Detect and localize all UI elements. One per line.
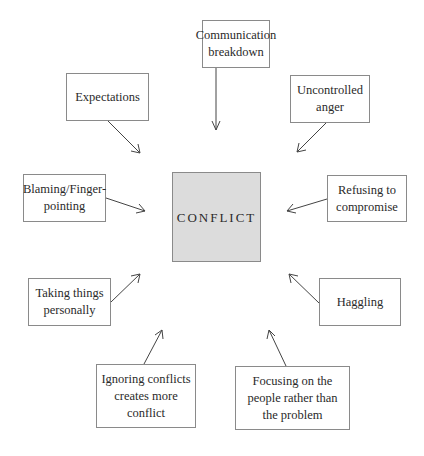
arrow-expectations <box>108 121 140 153</box>
node-label: Blaming/Finger-pointing <box>23 181 106 215</box>
arrow-blaming <box>106 198 145 213</box>
node-expectations: Expectations <box>66 73 149 121</box>
node-refusing-to-compromise: Refusing to compromise <box>327 175 407 222</box>
node-label: Expectations <box>75 89 140 106</box>
node-ignoring-conflicts: Ignoring conflicts creates more conflict <box>96 364 196 428</box>
node-label: Communication breakdown <box>196 27 277 61</box>
arrow-haggling <box>289 274 319 303</box>
node-uncontrolled-anger: Uncontrolled anger <box>290 75 370 123</box>
conflict-causes-diagram: CONFLICT Communication breakdown Expecta… <box>0 0 424 456</box>
node-blaming: Blaming/Finger-pointing <box>23 174 106 222</box>
node-label: Refusing to compromise <box>332 182 402 216</box>
node-communication-breakdown: Communication breakdown <box>202 20 270 68</box>
conflict-center-box: CONFLICT <box>172 172 261 262</box>
node-focusing-on-people: Focusing on the people rather than the p… <box>235 366 350 430</box>
arrow-focusing <box>267 330 286 366</box>
conflict-label: CONFLICT <box>177 209 257 226</box>
node-taking-things-personally: Taking things personally <box>28 278 111 326</box>
arrow-ignoring <box>144 330 163 364</box>
arrow-refusing <box>287 199 327 213</box>
node-label: Ignoring conflicts creates more conflict <box>101 371 191 422</box>
node-label: Haggling <box>337 294 384 311</box>
node-label: Taking things personally <box>33 285 106 319</box>
node-haggling: Haggling <box>319 278 401 326</box>
node-label: Uncontrolled anger <box>295 82 365 116</box>
node-label: Focusing on the people rather than the p… <box>240 373 345 424</box>
arrow-anger <box>297 123 326 152</box>
arrow-personally <box>111 274 140 302</box>
arrow-communication <box>212 68 220 130</box>
